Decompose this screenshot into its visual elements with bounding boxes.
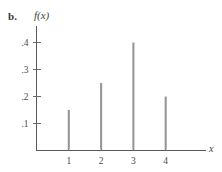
x-tick-label: 2 [99, 156, 104, 166]
y-tick-label: .1 [21, 119, 28, 129]
x-tick-label: 3 [131, 156, 136, 166]
y-tick-label: .3 [21, 65, 28, 75]
x-tick-label: 4 [163, 156, 168, 166]
x-tick-label: 1 [66, 156, 71, 166]
stem-group [69, 43, 166, 150]
y-tick-label: .4 [21, 38, 28, 48]
stem-plot: .1.2.3.4 1234 [0, 0, 222, 172]
x-tick-group: 1234 [66, 146, 168, 166]
figure-panel: b. f(x) x .1.2.3.4 1234 [0, 0, 222, 172]
y-tick-label: .2 [21, 92, 28, 102]
y-tick-group: .1.2.3.4 [21, 38, 40, 129]
